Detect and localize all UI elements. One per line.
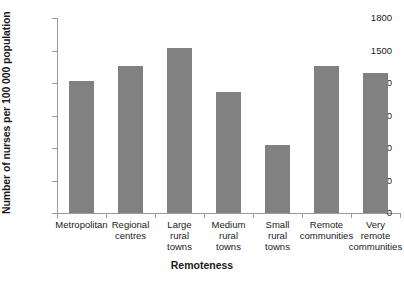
x-axis-label-line: remote	[337, 230, 404, 241]
y-axis-tick	[52, 83, 57, 84]
x-axis-tick	[400, 213, 401, 218]
x-axis-tick	[204, 213, 205, 218]
x-axis-tick	[351, 213, 352, 218]
y-axis-tick	[52, 51, 57, 52]
x-axis-label-line: Very	[337, 219, 404, 230]
bar-chart: Number of nurses per 100 000 population …	[0, 0, 404, 285]
bar	[118, 66, 143, 213]
y-axis-tick	[52, 148, 57, 149]
y-axis-tick-label: 1500	[352, 46, 392, 56]
y-axis-title: Number of nurses per 100 000 population	[0, 14, 13, 214]
cropped-page-text-bottom	[0, 278, 404, 285]
x-axis-tick	[155, 213, 156, 218]
y-axis-tick	[52, 18, 57, 19]
y-axis-tick-label: 1800	[352, 13, 392, 23]
x-axis-label-line: communities	[337, 241, 404, 252]
bar	[314, 66, 339, 213]
x-axis-label-line: towns	[239, 241, 317, 252]
bar	[167, 48, 192, 213]
x-axis-tick	[253, 213, 254, 218]
bar	[363, 73, 388, 213]
x-axis-line	[57, 213, 400, 214]
x-axis-category-label: Veryremotecommunities	[337, 219, 404, 253]
plot-area: 0300600900120015001800	[57, 18, 400, 213]
y-axis-tick	[52, 116, 57, 117]
y-axis-tick	[52, 181, 57, 182]
x-axis-tick	[57, 213, 58, 218]
x-axis-tick	[302, 213, 303, 218]
bar	[69, 81, 94, 213]
bar	[265, 145, 290, 213]
x-axis-tick	[106, 213, 107, 218]
x-axis-title: Remoteness	[0, 259, 404, 271]
bar	[216, 92, 241, 213]
